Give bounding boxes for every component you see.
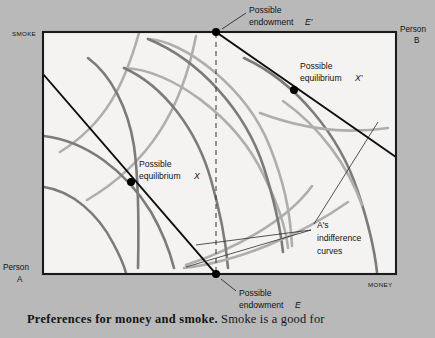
- figure-caption-title: Preferences for money and smoke.: [27, 312, 218, 326]
- callout-endowment-e-symbol: E: [295, 300, 301, 310]
- callout-equilibrium-x-symbol: X: [193, 171, 200, 181]
- callout-endowment-e-line1: Possible: [239, 288, 272, 298]
- callout-endowment-e-prime-line1: Possible: [249, 5, 282, 15]
- origin-a-label-line1: Person: [3, 263, 29, 272]
- callout-endowment-e-line2: endowment: [239, 300, 284, 310]
- edgeworth-box-diagram: SMOKE MONEY Person A Person B Possible e…: [0, 0, 435, 338]
- y-axis-label: SMOKE: [12, 30, 36, 37]
- callout-indifference-line1: A's: [317, 220, 329, 230]
- point-marker-equilibrium-x[interactable]: [127, 178, 135, 186]
- figure-caption: Preferences for money and smoke. Smoke i…: [0, 312, 435, 327]
- point-marker-endowment-e-prime[interactable]: [212, 28, 220, 36]
- callout-equilibrium-x-prime-line2: equilibrium: [300, 73, 342, 83]
- origin-a-label-line2: A: [17, 275, 23, 284]
- callout-equilibrium-x-line1: Possible: [139, 159, 172, 169]
- origin-b-label-line1: Person: [400, 25, 426, 34]
- figure-caption-body: Smoke is a good for: [221, 312, 325, 326]
- point-marker-equilibrium-x-prime[interactable]: [290, 86, 298, 94]
- x-axis-label: MONEY: [368, 281, 392, 288]
- callout-endowment-e-prime-symbol: E′: [305, 17, 313, 27]
- callout-endowment-e-prime-line2: endowment: [249, 17, 294, 27]
- callout-indifference-line3: curves: [317, 246, 342, 256]
- origin-b-label-line2: B: [414, 36, 420, 45]
- callout-equilibrium-x-prime-symbol: X′: [354, 73, 363, 83]
- callout-indifference-line2: indifference: [317, 233, 361, 243]
- point-marker-endowment-e[interactable]: [212, 270, 220, 278]
- callout-equilibrium-x-line2: equilibrium: [139, 171, 181, 181]
- figure-container: SMOKE MONEY Person A Person B Possible e…: [0, 0, 435, 338]
- callout-equilibrium-x-prime-line1: Possible: [300, 61, 333, 71]
